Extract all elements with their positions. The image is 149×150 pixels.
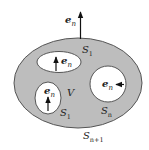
volume-surfaces-diagram: en S1 en en S1 V en Sn Sn+1	[0, 0, 149, 150]
left-hole-surface-label: S1	[60, 108, 71, 121]
volume-label: V	[67, 88, 74, 98]
outer-normal-label: en	[65, 15, 76, 28]
right-hole-normal-label: en	[102, 79, 113, 92]
outer-surface-label: Sn+1	[83, 131, 104, 144]
left-hole-normal-label: en	[44, 86, 55, 99]
top-hole-surface-label: S1	[82, 45, 93, 58]
right-hole-surface-label: Sn	[101, 106, 112, 119]
top-hole	[37, 52, 81, 73]
top-hole-normal-label: en	[61, 56, 72, 69]
